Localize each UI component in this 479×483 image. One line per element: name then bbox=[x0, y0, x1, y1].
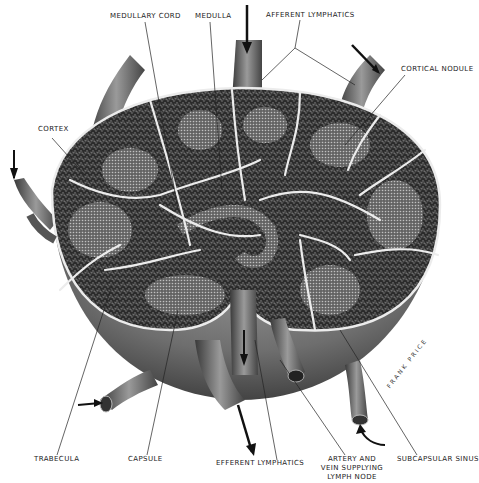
label-trabecula: TRABECULA bbox=[34, 455, 79, 464]
label-artery-and-vein: ARTERY AND VEIN SUPPLYING LYMPH NODE bbox=[318, 455, 386, 482]
label-efferent-lymphatics: EFFERENT LYMPHATICS bbox=[216, 459, 304, 468]
label-medulla: MEDULLA bbox=[195, 12, 232, 21]
label-cortex: CORTEX bbox=[38, 125, 69, 134]
label-medullary-cord: MEDULLARY CORD bbox=[110, 12, 181, 21]
label-cortical-nodule: CORTICAL NODULE bbox=[401, 65, 473, 74]
label-subcapsular-sinus: SUBCAPSULAR SINUS bbox=[397, 455, 479, 464]
label-afferent-lymphatics: AFFERENT LYMPHATICS bbox=[266, 11, 355, 20]
label-capsule: CAPSULE bbox=[128, 455, 163, 464]
